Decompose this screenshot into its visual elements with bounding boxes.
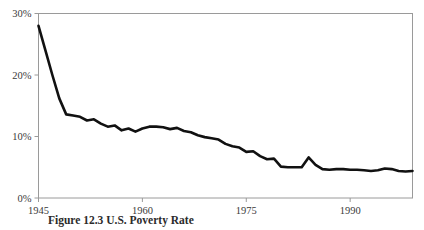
y-axis-labels: 0%10%20%30% [12, 8, 32, 204]
y-tick-label: 10% [12, 131, 32, 142]
x-tick-label: 1945 [28, 205, 49, 216]
x-axis-ticks [39, 198, 351, 202]
y-axis-ticks [35, 14, 39, 199]
figure-container: 0%10%20%30% 1945196019751990 Figure 12.3… [0, 0, 424, 230]
y-tick-label: 20% [12, 70, 32, 81]
y-tick-label: 0% [18, 193, 32, 204]
y-tick-label: 30% [12, 8, 32, 19]
data-series-line [39, 26, 413, 172]
figure-caption: Figure 12.3 U.S. Poverty Rate [48, 214, 408, 227]
line-chart: 0%10%20%30% 1945196019751990 [0, 0, 424, 230]
